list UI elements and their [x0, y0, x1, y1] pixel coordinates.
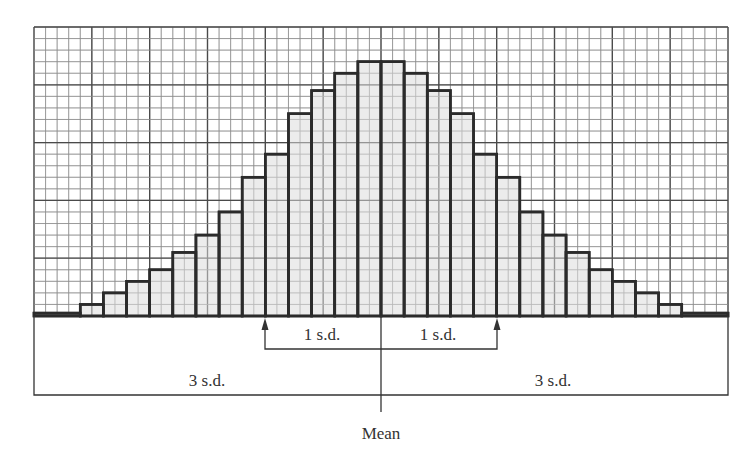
one-sd-left-label: 1 s.d. [304, 325, 340, 344]
normal-distribution-histogram: 1 s.d. 1 s.d. 3 s.d. 3 s.d. Mean [0, 0, 746, 463]
mean-label: Mean [362, 424, 401, 443]
arrow-up-left-icon [262, 318, 269, 330]
one-sd-right-label: 1 s.d. [420, 325, 456, 344]
three-sd-left-label: 3 s.d. [189, 371, 225, 390]
three-sd-right-label: 3 s.d. [535, 371, 571, 390]
sd-annotations: 1 s.d. 1 s.d. 3 s.d. 3 s.d. Mean [34, 316, 728, 443]
arrow-up-right-icon [494, 318, 501, 330]
